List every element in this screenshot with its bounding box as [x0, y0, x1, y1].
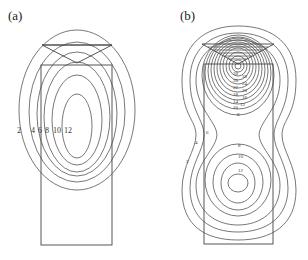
contour-label-18: 18	[233, 92, 239, 97]
contour-label-4: 4	[31, 126, 35, 135]
contour-label-10-bottom: 10	[238, 154, 244, 159]
contour-label-14: 14	[233, 99, 239, 104]
panel-a-contour-plot: 2 4 6 8 10 12	[0, 0, 154, 260]
contour-label-10: 10	[53, 126, 61, 135]
contour-label-12: 12	[240, 102, 246, 107]
contour-label-8: 8	[45, 126, 49, 135]
contour-label-20: 20	[242, 88, 248, 93]
contour-label-8-top: 8	[237, 112, 240, 117]
panel-b: (b) 30 28 26 24 2	[154, 0, 308, 260]
contour-label-24: 24	[242, 81, 248, 86]
contour-label-4: 4	[195, 140, 198, 145]
contour-label-22: 22	[233, 85, 239, 90]
contour-label-10: 10	[233, 105, 239, 110]
panel-a: (a) 2 4 6 8 10 12	[0, 0, 154, 260]
contour-label-26: 26	[233, 78, 239, 83]
contour-label-28: 28	[242, 74, 248, 79]
panel-b-contour-plot: 30 28 26 24 22 20 18 16 14 12 10 8 2 4 6…	[154, 0, 308, 260]
contour-label-16: 16	[242, 95, 248, 100]
contour-label-12: 12	[64, 126, 72, 135]
contour-label-6: 6	[206, 130, 209, 135]
contour-label-12-bottom: 12	[238, 168, 244, 173]
contour-label-6: 6	[38, 126, 42, 135]
contour-label-2: 2	[17, 126, 21, 135]
contour-label-30: 30	[233, 71, 239, 76]
